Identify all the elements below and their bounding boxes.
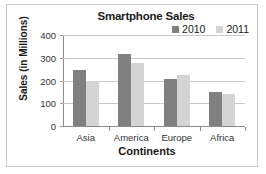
legend-item-2010[interactable]: 2010 [172,24,205,35]
legend-label-2010: 2010 [182,24,205,35]
y-tick-label: 0 [51,121,56,132]
legend-label-2011: 2011 [226,24,249,35]
bar-europe-2010[interactable] [164,79,177,126]
legend-swatch-2011 [216,26,223,33]
chart-legend: 2010 2011 [172,24,249,35]
bar-group [200,34,246,126]
chart-container: Smartphone Sales 2010 2011 Sales (in Mil… [6,4,258,167]
plot-area: 0100200300400AsiaAmericaEuropeAfrica [63,35,245,127]
bar-africa-2010[interactable] [209,92,222,126]
bar-europe-2011[interactable] [177,75,190,126]
x-tick-mark [245,127,246,131]
x-axis-title: Continents [7,145,257,157]
bar-group [109,34,155,126]
bar-america-2010[interactable] [118,54,131,126]
y-axis-title: Sales (in Millions) [18,9,29,109]
x-tick-mark [109,127,110,131]
bar-asia-2010[interactable] [73,70,86,126]
y-tick-mark [60,126,63,127]
y-tick-label: 300 [40,52,56,63]
bar-asia-2011[interactable] [86,81,99,127]
legend-item-2011[interactable]: 2011 [216,24,249,35]
x-tick-label-america: America [114,132,149,143]
x-tick-mark [200,127,201,131]
legend-swatch-2010 [172,26,179,33]
bar-africa-2011[interactable] [222,94,235,126]
bar-group [154,34,200,126]
x-tick-mark [154,127,155,131]
y-tick-label: 100 [40,98,56,109]
x-tick-label-africa: Africa [210,132,234,143]
bar-america-2011[interactable] [131,63,144,126]
chart-title: Smartphone Sales [7,10,257,22]
y-tick-label: 400 [40,30,56,41]
x-tick-label-europe: Europe [161,132,192,143]
x-tick-label-asia: Asia [77,132,95,143]
y-tick-label: 200 [40,75,56,86]
bar-group [63,34,109,126]
